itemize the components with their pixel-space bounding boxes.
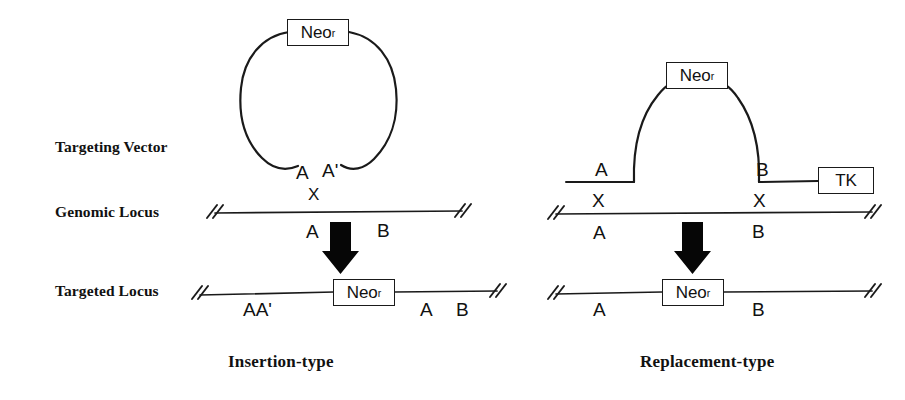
neo-cassette-box-left-vector: Neor	[287, 19, 349, 46]
right-genomic-segment-b-label: B	[752, 222, 765, 241]
neo-label: Neo	[680, 67, 711, 84]
tk-label: TK	[835, 172, 857, 189]
caption-insertion-type: Insertion-type	[228, 352, 334, 372]
left-targeted-segment-a-label: A	[420, 300, 433, 319]
right-crossover-x-mark-left: X	[592, 191, 605, 210]
right-vector-arm-a-label: A	[595, 160, 608, 179]
neo-cassette-box-left-targeted: Neor	[333, 279, 395, 306]
right-targeted-segment-b-label: B	[752, 300, 765, 319]
left-genomic-segment-b-label: B	[377, 221, 390, 240]
left-vector-arm-aprime-label: A'	[322, 161, 338, 180]
neo-cassette-box-right-targeted: Neor	[662, 279, 724, 306]
right-crossover-x-mark-right: X	[753, 191, 766, 210]
right-recombination-arrow	[674, 222, 711, 274]
left-crossover-x-mark: X	[308, 186, 319, 203]
diagram-line-art	[0, 0, 905, 400]
tk-cassette-box: TK	[818, 167, 874, 194]
caption-replacement-type: Replacement-type	[640, 352, 774, 372]
neo-cassette-box-right-vector: Neor	[666, 62, 728, 89]
left-genomic-locus-line	[207, 204, 471, 218]
neo-label: Neo	[347, 284, 378, 301]
neo-label: Neo	[676, 284, 707, 301]
left-vector-arm-a-label: A	[296, 163, 309, 182]
right-genomic-segment-a-label: A	[593, 223, 606, 242]
left-genomic-segment-a-label: A	[306, 222, 319, 241]
left-recombination-arrow	[322, 222, 359, 274]
left-targeted-duplicated-arm-label: AA'	[243, 300, 272, 319]
right-vector-arm-b-label: B	[756, 160, 769, 179]
right-targeted-segment-a-label: A	[593, 300, 606, 319]
gene-targeting-diagram: Targeting Vector Genomic Locus Targeted …	[0, 0, 905, 400]
neo-label: Neo	[301, 24, 332, 41]
left-targeted-segment-b-label: B	[456, 300, 469, 319]
left-vector-circle	[240, 32, 396, 169]
